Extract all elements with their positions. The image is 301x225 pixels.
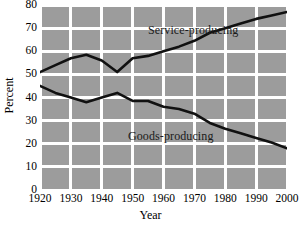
y-tick-label: 80 bbox=[1, 0, 37, 11]
x-tick-label: 2000 bbox=[265, 193, 301, 205]
line-series-service-producing bbox=[40, 12, 287, 72]
annotation-goods-producing: Goods-producing bbox=[128, 129, 214, 144]
annotation-service-producing: Service-producing bbox=[148, 23, 238, 38]
x-axis-title: Year bbox=[0, 208, 301, 223]
x-axis-tick-labels: 192019301940195019601970198019902000 bbox=[0, 193, 301, 207]
y-tick-label: 60 bbox=[1, 45, 37, 57]
y-tick-label: 70 bbox=[1, 22, 37, 34]
y-tick-label: 20 bbox=[1, 138, 37, 150]
line-chart: Service-producing Goods-producing 010203… bbox=[0, 0, 301, 225]
plot-area: Service-producing Goods-producing bbox=[40, 5, 287, 190]
y-axis-title: Percent bbox=[2, 60, 17, 132]
y-tick-label: 10 bbox=[1, 161, 37, 173]
